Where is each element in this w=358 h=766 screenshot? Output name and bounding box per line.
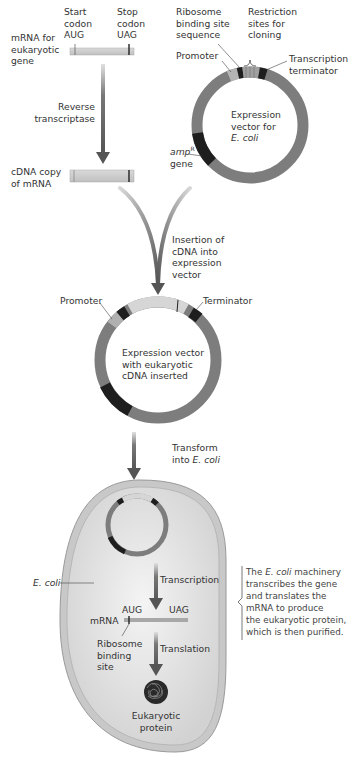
expression-vector-center-label: Expression vector for E. coli (231, 109, 281, 144)
insertion-line: vector (172, 269, 224, 281)
note-line: which is then purified. (246, 626, 346, 638)
note-bracket (238, 566, 242, 640)
rbs-line: sequence (176, 29, 230, 41)
note-line: and translates the (246, 590, 346, 602)
note-line: mRNA to produce (246, 602, 346, 614)
center-line: vector for (231, 121, 281, 133)
recombinant-center-line: Expression vector (122, 347, 204, 359)
terminator-line: Transcription (289, 53, 348, 65)
note-text: The E. coli machinery transcribes the ge… (246, 566, 346, 638)
rbs-cell-line: site (97, 661, 142, 673)
rbs-cell-line: binding (97, 650, 142, 662)
amp-gene-line: gene (170, 158, 195, 170)
note-italic: E. coli (265, 567, 291, 577)
ecoli-label: E. coli (33, 577, 60, 589)
transform-prefix: into (172, 454, 193, 465)
insertion-label: Insertion of cDNA into expression vector (172, 234, 224, 280)
recombinant-center-line: with eukaryotic (122, 359, 204, 371)
mrna-label-line: mRNA for (11, 32, 59, 44)
protein-icon (144, 680, 168, 704)
restriction-line: cloning (248, 29, 297, 41)
insertion-line: Insertion of (172, 234, 224, 246)
restriction-line: sites for (248, 18, 297, 30)
translation-label: Translation (160, 643, 210, 655)
transform-label: Transform into E. coli (172, 442, 220, 465)
mrna-label-line: gene (11, 55, 59, 67)
recombinant-center-label: Expression vector with eukaryotic cDNA i… (122, 347, 204, 382)
start-codon-label: Start codon AUG (64, 6, 92, 41)
transform-line: Transform (172, 442, 220, 454)
cdna-bar (70, 170, 134, 182)
terminator-label-recombinant: Terminator (203, 295, 252, 307)
stop-codon-label-line: Stop (117, 6, 145, 18)
recombinant-center-line: cDNA inserted (122, 370, 204, 382)
transcription-label: Transcription (160, 574, 219, 586)
stop-codon-label: Stop codon UAG (117, 6, 145, 41)
mrna-label: mRNA for eukaryotic gene (11, 32, 59, 67)
rbs-line: Ribosome (176, 6, 230, 18)
stop-codon-value: UAG (117, 29, 145, 41)
insertion-line: cDNA into (172, 246, 224, 258)
rbs-line: binding site (176, 18, 230, 30)
cdna-label-line: cDNA copy (11, 166, 61, 178)
reverse-transcriptase-line: Reverse (30, 101, 95, 113)
center-line: Expression (231, 109, 281, 121)
amp-gene-label: ampR gene (170, 146, 195, 169)
protein-line: Eukaryotic (126, 710, 186, 722)
note-line: the eukaryotic protein, (246, 614, 346, 626)
reverse-transcriptase-arrow (96, 64, 110, 164)
promoter-label-recombinant: Promoter (60, 295, 102, 307)
cdna-label: cDNA copy of mRNA (11, 166, 61, 189)
stop-codon-label-line: codon (117, 18, 145, 30)
promoter-label-top: Promoter (176, 50, 218, 62)
mrna-label-line: eukaryotic (11, 44, 59, 56)
protein-line: protein (126, 722, 186, 734)
terminator-line: terminator (289, 65, 348, 77)
reverse-transcriptase-label: Reverse transcriptase (30, 101, 95, 124)
start-codon-value: AUG (64, 29, 92, 41)
mrna-cell-label: mRNA (90, 615, 119, 627)
note-line: transcribes the gene (246, 578, 346, 590)
mrna-bar (70, 44, 134, 55)
ribosome-binding-label: Ribosome binding site sequence (176, 6, 230, 41)
restriction-line: Restriction (248, 6, 297, 18)
amp-text: amp (170, 146, 190, 157)
transform-italic: E. coli (193, 454, 220, 465)
start-codon-label-line: Start (64, 6, 92, 18)
uag-label: UAG (169, 604, 189, 616)
note-prefix: The (246, 567, 265, 577)
note-suffix: machinery (291, 567, 340, 577)
rbs-cell-line: Ribosome (97, 638, 142, 650)
ribosome-binding-site-label: Ribosome binding site (97, 638, 142, 673)
insertion-line: expression (172, 257, 224, 269)
aug-label: AUG (122, 604, 142, 616)
center-line-italic: E. coli (231, 132, 281, 144)
reverse-transcriptase-line: transcriptase (30, 113, 95, 125)
start-codon-label-line: codon (64, 18, 92, 30)
transform-arrow (127, 432, 141, 480)
transcription-terminator-label: Transcription terminator (289, 53, 348, 76)
amp-superscript: R (190, 145, 194, 152)
eukaryotic-protein-label: Eukaryotic protein (126, 710, 186, 733)
restriction-sites-label: Restriction sites for cloning (248, 6, 297, 41)
cdna-label-line: of mRNA (11, 178, 61, 190)
